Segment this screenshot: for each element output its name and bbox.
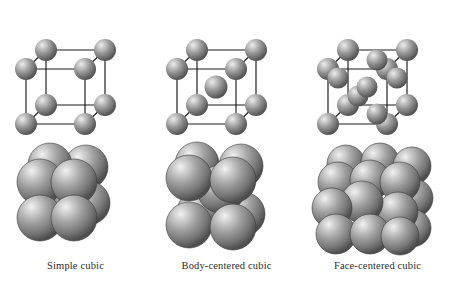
face-center-atom-bottom xyxy=(367,104,388,125)
lattice-model-face-centered-cubic xyxy=(302,0,453,140)
cell-label-simple-cubic: Simple cubic xyxy=(0,260,151,271)
face-center-atom-left xyxy=(328,68,349,89)
lattice-atoms xyxy=(15,39,116,135)
cube-edges xyxy=(26,50,105,124)
packing-model-face-centered-cubic xyxy=(302,140,453,258)
face-center-atom-right xyxy=(387,68,408,89)
packed-spheres xyxy=(17,143,110,241)
unit-cell-body-centered-cubic: Body-centered cubic xyxy=(151,0,302,287)
lattice-atoms xyxy=(317,39,418,135)
packed-spheres xyxy=(166,142,265,250)
cell-label-face-centered-cubic: Face-centered cubic xyxy=(302,260,453,271)
packed-spheres xyxy=(312,143,433,255)
packing-model-body-centered-cubic xyxy=(151,140,302,258)
face-center-atom-back xyxy=(357,77,378,98)
cell-label-body-centered-cubic: Body-centered cubic xyxy=(151,260,302,271)
lattice-model-simple-cubic xyxy=(0,0,151,140)
face-center-atom-top xyxy=(367,50,388,71)
body-center-atom xyxy=(205,76,228,99)
lattice-atoms xyxy=(166,39,267,135)
unit-cell-simple-cubic: Simple cubic xyxy=(0,0,151,287)
crystal-lattice-figure: Simple cubic xyxy=(0,0,453,287)
unit-cell-face-centered-cubic: Face-centered cubic xyxy=(302,0,453,287)
lattice-model-body-centered-cubic xyxy=(151,0,302,140)
packing-model-simple-cubic xyxy=(0,140,151,258)
